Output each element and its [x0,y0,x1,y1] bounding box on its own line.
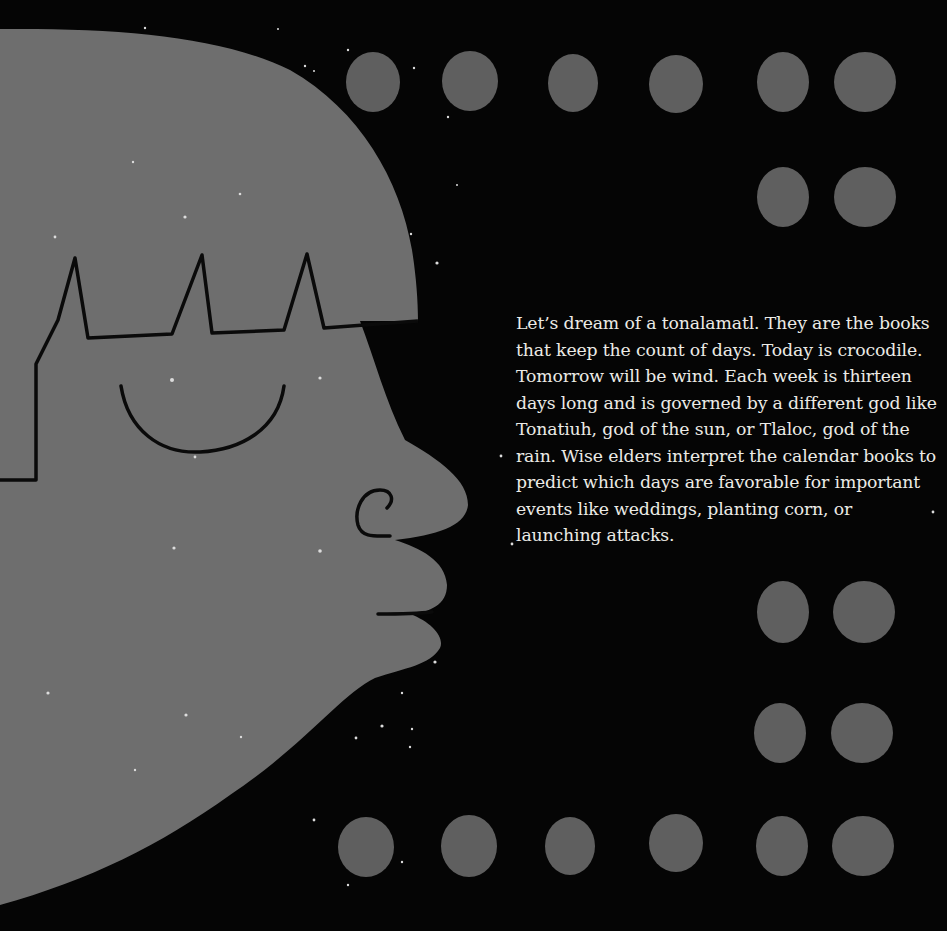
moon-circle [442,51,498,111]
moon-circle [649,55,703,113]
moon-circle [757,167,809,227]
moon-circle [649,814,703,872]
moon-circle [756,816,808,876]
story-text: Let’s dream of a tonalamatl. They are th… [516,310,946,549]
star [170,378,174,382]
star [46,691,49,694]
moon-circle [834,167,896,227]
moon-circle [441,815,497,877]
star [401,692,403,694]
star [194,456,197,459]
moon-circle [832,816,894,876]
moon-circle [548,54,598,112]
star [409,746,411,748]
moon-circle [545,817,595,875]
story-line: Tonatiuh, god of the sun, or Tlaloc, god… [516,416,946,443]
story-line: predict which days are favorable for imp… [516,469,946,496]
story-line: Let’s dream of a tonalamatl. They are th… [516,310,946,337]
moon-circle [831,703,893,763]
star [277,28,279,30]
star [184,713,187,716]
star [54,236,57,239]
moon-circle [834,52,896,112]
star [239,193,242,196]
star [355,737,358,740]
star [183,215,186,218]
moon-circle [757,581,809,643]
star [433,660,436,663]
star [318,376,321,379]
star [132,161,134,163]
story-line: rain. Wise elders interpret the calendar… [516,443,946,470]
star [304,65,306,67]
star [413,67,415,69]
star [410,233,412,235]
star [411,728,413,730]
moon-circle [757,52,809,112]
moon-circle [338,817,394,877]
star [347,49,349,51]
story-line: days long and is governed by a different… [516,390,946,417]
story-line: that keep the count of days. Today is cr… [516,337,946,364]
star [401,861,403,863]
star [144,27,146,29]
star [511,543,514,546]
moon-circle [833,581,895,643]
story-line: launching attacks. [516,522,946,549]
moon-circle [346,52,400,112]
star [435,261,438,264]
story-line: Tomorrow will be wind. Each week is thir… [516,363,946,390]
star [134,769,136,771]
star [172,546,175,549]
star [240,736,242,738]
star [380,724,383,727]
mouth-line [378,612,432,614]
moon-circle [754,703,806,763]
star [347,884,349,886]
star [318,549,322,553]
star [456,184,458,186]
star [313,819,316,822]
star [313,70,315,72]
star [500,455,503,458]
story-line: events like weddings, planting corn, or [516,496,946,523]
star [447,116,449,118]
